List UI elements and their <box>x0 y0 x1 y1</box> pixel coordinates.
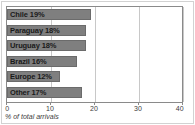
bar-row[interactable]: Europe 12% <box>7 71 183 82</box>
bar-row[interactable]: Brazil 16% <box>7 56 183 67</box>
bar-label: Other 17% <box>10 87 46 98</box>
bar-label: Paraguay 18% <box>10 25 60 36</box>
bar-label: Uruguay 18% <box>10 40 56 51</box>
bar-row[interactable]: Uruguay 18% <box>7 40 183 51</box>
x-tick-label: 0 <box>5 105 9 112</box>
bar-series: Chile 19%Paraguay 18%Uruguay 18%Brazil 1… <box>7 7 182 102</box>
x-axis-caption: % of total arrivals <box>5 113 59 120</box>
x-axis: 010203040 <box>6 103 183 113</box>
chart-screenshot: Chile 19%Paraguay 18%Uruguay 18%Brazil 1… <box>0 0 195 125</box>
bar-row[interactable]: Paraguay 18% <box>7 25 183 36</box>
bar-label: Chile 19% <box>10 9 45 20</box>
bar-row[interactable]: Chile 19% <box>7 9 183 20</box>
x-tick-label: 40 <box>176 105 184 112</box>
x-tick-label: 20 <box>90 105 98 112</box>
x-tick-label: 10 <box>46 105 54 112</box>
plot-area: Chile 19%Paraguay 18%Uruguay 18%Brazil 1… <box>6 6 183 103</box>
gridline-40 <box>183 7 184 102</box>
bar-row[interactable]: Other 17% <box>7 87 183 98</box>
x-tick-label: 30 <box>134 105 142 112</box>
bar-label: Europe 12% <box>10 71 52 82</box>
bar-label: Brazil 16% <box>10 56 47 67</box>
